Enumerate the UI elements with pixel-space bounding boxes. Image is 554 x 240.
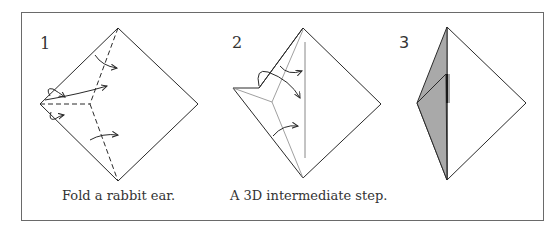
- step-3-shaded-front: [417, 74, 447, 180]
- step-1-caption: Fold a rabbit ear.: [62, 188, 175, 203]
- step-3-diagram: [417, 27, 526, 180]
- step-1-number: 1: [40, 34, 50, 53]
- step-1-square: [40, 28, 198, 181]
- step-2-paper: [233, 28, 381, 178]
- step-2-caption: A 3D intermediate step.: [230, 188, 387, 203]
- step-2-diagram: [233, 28, 381, 178]
- step-3-white-half: [447, 27, 526, 180]
- step-2-number: 2: [232, 33, 242, 52]
- step-3-number: 3: [399, 33, 409, 52]
- step-1-diagram: [40, 28, 198, 181]
